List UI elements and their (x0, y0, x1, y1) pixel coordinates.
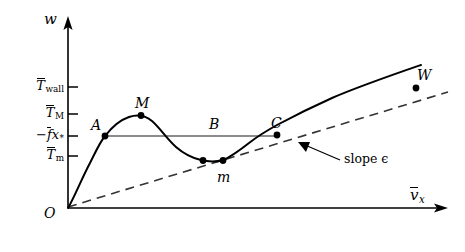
t-m-lower-subscript: m (56, 154, 64, 163)
x-star-subscript: * (60, 134, 64, 143)
t-m-upper-base: T (46, 106, 55, 119)
t-wall-base: T (36, 79, 45, 92)
data-point-m-max (138, 112, 145, 119)
f-bar-base: f (47, 128, 52, 141)
t-m-lower-base: T (46, 148, 55, 161)
t-wall-subscript: wall (46, 85, 64, 94)
y-tick-label-t-m-lower: Tm (0, 148, 64, 163)
x-axis-label-base: v (410, 188, 418, 203)
data-point-c (274, 132, 281, 139)
data-point-b (200, 157, 207, 164)
x-axis-label: vx (410, 188, 425, 205)
y-tick-label-t-wall: Twall (0, 79, 64, 94)
point-label-m-max: M (135, 96, 149, 110)
x-variable: x (52, 127, 59, 142)
slope-epsilon-dashed-line (68, 92, 448, 207)
data-point-w (413, 85, 420, 92)
point-label-m-min: m (217, 170, 230, 184)
minus-sign: − (36, 127, 47, 142)
t-m-upper-subscript: M (55, 112, 64, 121)
point-label-b: B (209, 117, 219, 131)
y-axis-label: w (44, 12, 57, 27)
point-label-c: C (271, 116, 282, 130)
y-tick-label-t-m-upper: TM (0, 106, 64, 121)
point-label-a: A (91, 118, 101, 132)
data-point-a (102, 133, 109, 140)
slope-annotation-leader-line (305, 145, 340, 160)
origin-label: O (44, 206, 55, 220)
slope-epsilon-annotation: slope ϵ (344, 153, 388, 166)
plot-canvas (0, 0, 465, 252)
x-axis-label-subscript: x (419, 195, 425, 205)
figure-container: w vx O Twall TM −fx* Tm A M B m C W slop… (0, 0, 465, 252)
data-point-m-min (220, 157, 227, 164)
point-label-w: W (417, 68, 431, 82)
y-tick-label-minus-f-x-star: −fx* (0, 128, 64, 143)
